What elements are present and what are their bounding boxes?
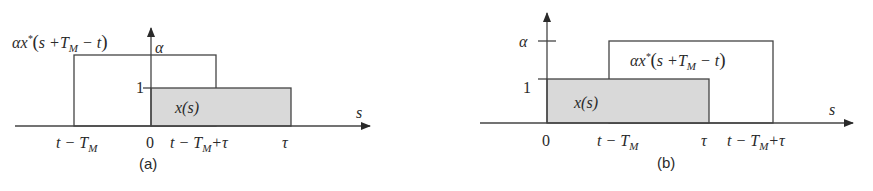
x-tick-t-minus-tm-plus-tau-a: t − TM+τ (170, 134, 229, 154)
signal-pulse-rect-b (547, 79, 709, 123)
outline-label-b: αx*(s +TM − t) (630, 49, 726, 72)
panel-b: α 1 αx*(s +TM − t) x(s) s 0 t − TM τ t −… (480, 13, 853, 171)
figure-canvas: αx*(s +TM − t) α 1 x(s) s t − TM 0 t − T… (0, 0, 873, 191)
x-tick-zero-a: 0 (146, 134, 154, 151)
signal-label-b: x(s) (573, 94, 598, 112)
x-tick-t-minus-tm-b: t − TM (597, 132, 639, 152)
x-tick-tau-b: τ (701, 132, 708, 149)
x-axis-label-b: s (829, 101, 835, 118)
x-axis-label-a: s (356, 104, 362, 121)
caption-b: (b) (657, 154, 675, 171)
y-axis-label-a: α (155, 39, 164, 56)
signal-label-a: x(s) (174, 99, 199, 117)
caption-a: (a) (139, 155, 157, 172)
outline-label-a: αx*(s +TM − t) (12, 31, 108, 54)
y-tick-1-label-b: 1 (523, 79, 531, 96)
x-tick-t-minus-tm-plus-tau-b: t − TM+τ (727, 132, 786, 152)
x-tick-t-minus-tm-a: t − TM (56, 134, 98, 154)
signal-pulse-rect-a (151, 88, 291, 126)
x-tick-tau-a: τ (282, 134, 289, 151)
panel-a: αx*(s +TM − t) α 1 x(s) s t − TM 0 t − T… (12, 28, 370, 172)
y-tick-1-label-a: 1 (136, 79, 144, 96)
y-axis-label-b: α (519, 33, 528, 50)
x-tick-zero-b: 0 (542, 132, 550, 149)
